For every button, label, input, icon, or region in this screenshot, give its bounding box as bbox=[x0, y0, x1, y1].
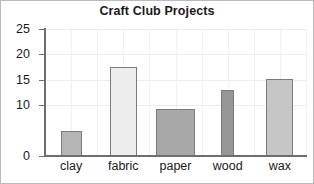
x-axis-label-paper: paper bbox=[149, 160, 201, 173]
bar-clay bbox=[61, 131, 82, 156]
gridline-x bbox=[306, 29, 307, 156]
bar-wood bbox=[221, 90, 235, 156]
gridline-y-20 bbox=[45, 54, 306, 55]
x-axis-label-wood: wood bbox=[202, 160, 254, 173]
y-tick-mark-15 bbox=[39, 80, 44, 81]
y-tick-mark-20 bbox=[39, 54, 44, 55]
y-tick-label-20: 20 bbox=[16, 48, 30, 61]
bar-fabric bbox=[110, 67, 137, 156]
bar-wax bbox=[266, 79, 293, 156]
bar-chart-figure: Craft Club Projects 010152025 clayfabric… bbox=[0, 0, 314, 184]
gridline-x bbox=[202, 29, 203, 156]
y-tick-label-0: 0 bbox=[23, 150, 30, 163]
x-axis-label-wax: wax bbox=[254, 160, 306, 173]
gridline-x bbox=[97, 29, 98, 156]
y-axis-line bbox=[44, 28, 46, 157]
plot-area bbox=[45, 29, 306, 156]
gridline-x bbox=[149, 29, 150, 156]
y-tick-mark-10 bbox=[39, 105, 44, 106]
bar-paper bbox=[156, 109, 195, 156]
x-axis-label-clay: clay bbox=[45, 160, 97, 173]
y-tick-mark-25 bbox=[39, 29, 44, 30]
chart-title: Craft Club Projects bbox=[1, 4, 313, 18]
x-axis-label-fabric: fabric bbox=[97, 160, 149, 173]
y-tick-mark-0 bbox=[39, 156, 44, 157]
gridline-y-25 bbox=[45, 29, 306, 30]
y-tick-label-25: 25 bbox=[16, 23, 30, 36]
y-tick-label-15: 15 bbox=[16, 74, 30, 87]
x-axis-line bbox=[44, 155, 307, 157]
gridline-x bbox=[254, 29, 255, 156]
y-tick-label-10: 10 bbox=[16, 99, 30, 112]
